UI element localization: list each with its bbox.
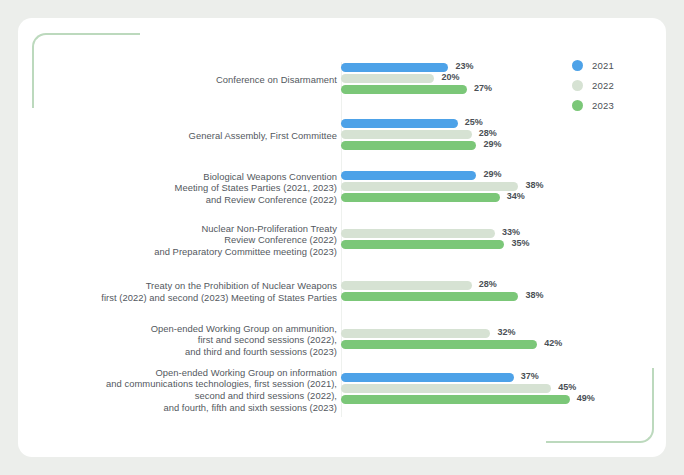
bar-2022[interactable] [341,281,472,290]
bar-2023[interactable] [341,292,518,301]
bar-value-label: 29% [483,169,501,179]
bar-value-label: 29% [483,139,501,149]
legend-item-label: 2023 [592,100,614,111]
bar-2023[interactable] [341,141,476,150]
bar-2022[interactable] [341,229,495,238]
legend-swatch-icon [572,100,583,111]
bar-chart-plot-area: Conference on Disarmament23%20%27%Genera… [0,0,684,475]
category-axis-line [341,62,342,417]
bar-value-label: 27% [474,83,492,93]
bar-value-label: 28% [479,128,497,138]
bar-2021[interactable] [341,373,514,382]
bar-2022[interactable] [341,130,472,139]
legend-item-2022[interactable]: 2022 [572,77,652,94]
category-label-line: and third and fourth sessions (2023) [37,346,337,358]
bar-2022[interactable] [341,182,518,191]
bar-value-label: 33% [502,227,520,237]
category-label-line: and fourth, fifth and sixth sessions (20… [37,402,337,414]
bar-value-label: 49% [577,393,595,403]
bar-value-label: 38% [525,180,543,190]
category-label: Conference on Disarmament [37,74,337,86]
category-label-line: Biological Weapons Convention [37,171,337,183]
category-label-line: General Assembly, First Committee [37,130,337,142]
bar-2022[interactable] [341,384,551,393]
bar-value-label: 35% [511,238,529,248]
bar-value-label: 42% [544,338,562,348]
bar-2021[interactable] [341,171,476,180]
bar-2023[interactable] [341,240,504,249]
category-label-line: Meeting of States Parties (2021, 2023) [37,182,337,194]
bar-2021[interactable] [341,63,448,72]
category-label-line: Review Conference (2022) [37,234,337,246]
legend-item-label: 2022 [592,80,614,91]
legend-item-2023[interactable]: 2023 [572,97,652,114]
chart-legend: 202120222023 [572,57,652,117]
bar-value-label: 32% [497,327,515,337]
category-label: General Assembly, First Committee [37,130,337,142]
bar-2023[interactable] [341,193,500,202]
category-label-line: and communications technologies, first s… [37,378,337,390]
bar-value-label: 28% [479,279,497,289]
bar-2023[interactable] [341,340,537,349]
category-label-line: first (2022) and second (2023) Meeting o… [37,292,337,304]
category-label: Open-ended Working Group on ammunition,f… [37,323,337,358]
category-label-line: Treaty on the Prohibition of Nuclear Wea… [37,280,337,292]
bar-2021[interactable] [341,119,458,128]
category-label-line: Nuclear Non-Proliferation Treaty [37,223,337,235]
legend-swatch-icon [572,60,583,71]
bar-2022[interactable] [341,74,434,83]
bar-value-label: 34% [507,191,525,201]
category-label-line: Conference on Disarmament [37,74,337,86]
bar-value-label: 23% [455,61,473,71]
bar-value-label: 37% [521,371,539,381]
category-label-line: and Preparatory Committee meeting (2023) [37,246,337,258]
category-label-line: and Review Conference (2022) [37,194,337,206]
category-label: Biological Weapons ConventionMeeting of … [37,171,337,206]
category-label: Nuclear Non-Proliferation TreatyReview C… [37,223,337,258]
category-label-line: second and third sessions (2022), [37,390,337,402]
category-label-line: Open-ended Working Group on ammunition, [37,323,337,335]
category-label-line: Open-ended Working Group on information [37,367,337,379]
legend-item-2021[interactable]: 2021 [572,57,652,74]
bar-value-label: 25% [465,117,483,127]
legend-swatch-icon [572,80,583,91]
category-label: Open-ended Working Group on informationa… [37,367,337,413]
bar-2023[interactable] [341,85,467,94]
bar-value-label: 45% [558,382,576,392]
bar-2023[interactable] [341,395,570,404]
category-label: Treaty on the Prohibition of Nuclear Wea… [37,280,337,303]
bar-value-label: 38% [525,290,543,300]
chart-screenshot: Conference on Disarmament23%20%27%Genera… [0,0,684,475]
category-label-line: first and second sessions (2022), [37,334,337,346]
bar-value-label: 20% [441,72,459,82]
legend-item-label: 2021 [592,60,614,71]
bar-2022[interactable] [341,329,490,338]
